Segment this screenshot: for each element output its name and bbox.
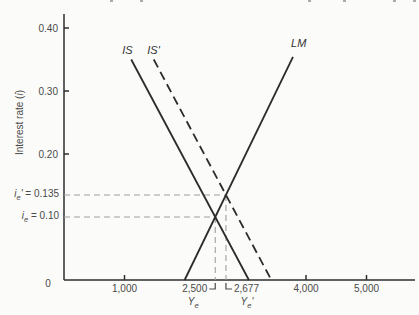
y-axis-title-close: )	[14, 90, 25, 93]
scan-speck	[140, 0, 143, 2]
origin-label: 0	[45, 278, 51, 289]
scan-speck	[110, 0, 113, 2]
curve-LM	[185, 57, 293, 280]
scan-speck	[343, 0, 346, 2]
curve-label-LM: LM	[291, 37, 307, 49]
scan-speck	[413, 0, 416, 2]
foot-bracket-E	[209, 283, 215, 289]
i-e-value: = 0.10	[28, 210, 59, 221]
chart-svg: 00.400.300.201,0004,0005,0002,5002,677IS…	[0, 0, 419, 315]
y-axis-title: Interest rate (i)	[14, 82, 27, 164]
y-e-prime-label: Ye'	[233, 296, 261, 307]
curve-IS	[131, 60, 249, 281]
y-e-label: Ye	[179, 296, 207, 307]
y-e-prime-mark: '	[251, 296, 253, 307]
y-axis-title-text: Interest rate (	[14, 96, 25, 155]
islm-figure: 00.400.300.201,0004,0005,0002,5002,677IS…	[0, 0, 419, 315]
y-e-var: Y	[188, 296, 195, 307]
eq-x-label-E': 2,677	[234, 283, 259, 294]
y-tick-label: 0.20	[39, 149, 59, 160]
foot-bracket-E'	[226, 283, 232, 289]
y-tick-label: 0.40	[39, 23, 59, 34]
scan-speck	[393, 0, 396, 2]
x-tick-label: 1,000	[112, 283, 137, 294]
y-tick-label: 0.30	[39, 86, 59, 97]
curve-label-IS: IS	[122, 44, 133, 56]
x-tick-label: 5,000	[354, 283, 379, 294]
y-axis-title-var: i	[14, 93, 25, 95]
curve-label-IS': IS'	[147, 44, 160, 56]
x-tick-label: 4,000	[293, 283, 318, 294]
i-e-prime-label: ie' = 0.135	[0, 188, 59, 199]
scan-speck	[308, 0, 311, 2]
curve-IS'	[154, 60, 272, 281]
y-e-sub: e	[195, 301, 199, 310]
i-e-label: ie = 0.10	[0, 210, 59, 221]
eq-x-label-E: 2,500	[182, 283, 207, 294]
i-e-prime-value: = 0.135	[23, 188, 59, 199]
